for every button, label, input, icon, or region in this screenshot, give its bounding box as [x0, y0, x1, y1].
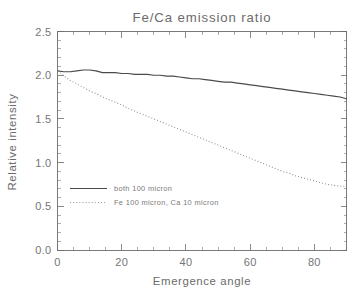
chart-title: Fe/Ca emission ratio: [133, 10, 272, 25]
y-tick-label: 1.5: [35, 113, 51, 125]
legend-label-both-100-micron: both 100 micron: [114, 184, 172, 193]
y-axis-title: Relative intensity: [6, 94, 18, 191]
x-axis-title: Emergence angle: [153, 275, 251, 287]
chart-svg: Fe/Ca emission ratio Relative intensity …: [0, 0, 362, 292]
x-tick-label: 80: [308, 256, 321, 268]
chart-figure: Fe/Ca emission ratio Relative intensity …: [0, 0, 362, 292]
x-tick-label: 40: [180, 256, 193, 268]
legend-label-fe-100-ca-10-micron: Fe 100 micron, Ca 10 micron: [114, 198, 219, 207]
y-tick-label: 2.0: [35, 69, 51, 81]
x-tick-label: 0: [54, 256, 60, 268]
y-tick-label: 0.5: [35, 200, 51, 212]
y-tick-label: 2.5: [35, 26, 51, 38]
x-tick-label: 20: [115, 256, 128, 268]
y-tick-label: 1.0: [35, 157, 51, 169]
y-tick-label: 0.0: [35, 244, 51, 256]
chart-background: [0, 0, 362, 292]
x-tick-label: 60: [244, 256, 257, 268]
